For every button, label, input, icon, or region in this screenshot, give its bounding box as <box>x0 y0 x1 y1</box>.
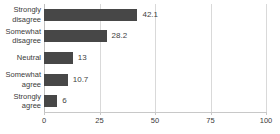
bar-value-label: 28.2 <box>112 32 128 40</box>
x-axis-tick-labels: 0255075100 <box>0 116 280 130</box>
tick-mark-50 <box>155 112 156 115</box>
bar-row: 42.1 <box>44 4 266 26</box>
bar-rows: 42.128.21310.76 <box>44 4 266 112</box>
category-label: Somewhatdisagree <box>0 26 41 48</box>
category-axis-labels: StronglydisagreeSomewhatdisagreeNeutralS… <box>0 4 41 112</box>
bar-value-label: 42.1 <box>142 11 158 19</box>
category-label-line: agree <box>0 80 41 90</box>
bar-chart: 42.128.21310.76 StronglydisagreeSomewhat… <box>0 0 280 134</box>
gridline-100 <box>266 4 267 112</box>
x-tick-label-0: 0 <box>42 116 46 126</box>
x-tick-label-100: 100 <box>260 116 273 126</box>
tick-mark-0 <box>44 112 45 115</box>
bar <box>44 52 73 64</box>
category-label-line: disagree <box>0 36 41 46</box>
bar-row: 28.2 <box>44 26 266 48</box>
bar <box>44 30 107 42</box>
bar-row: 6 <box>44 90 266 112</box>
category-label: Somewhatagree <box>0 69 41 91</box>
category-label-line: agree <box>0 101 41 111</box>
bar-value-label: 6 <box>62 97 66 105</box>
bar-value-label: 10.7 <box>73 76 89 84</box>
bar-row: 13 <box>44 47 266 69</box>
plot-area: 42.128.21310.76 <box>44 4 266 112</box>
category-label-line: Somewhat <box>0 70 41 80</box>
bar <box>44 95 57 107</box>
category-label-line: Strongly <box>0 92 41 102</box>
category-label-line: disagree <box>0 15 41 25</box>
tick-mark-75 <box>211 112 212 115</box>
tick-mark-25 <box>100 112 101 115</box>
category-label: Stronglyagree <box>0 90 41 112</box>
category-label: Neutral <box>0 47 41 69</box>
category-label-line: Strongly <box>0 5 41 15</box>
x-tick-label-50: 50 <box>151 116 159 126</box>
bar <box>44 74 68 86</box>
x-tick-label-25: 25 <box>95 116 103 126</box>
tick-mark-100 <box>266 112 267 115</box>
bar-value-label: 13 <box>78 54 87 62</box>
x-tick-label-75: 75 <box>206 116 214 126</box>
category-label-line: Neutral <box>0 53 41 63</box>
category-label-line: Somewhat <box>0 27 41 37</box>
bar-row: 10.7 <box>44 69 266 91</box>
bar <box>44 9 137 21</box>
category-label: Stronglydisagree <box>0 4 41 26</box>
